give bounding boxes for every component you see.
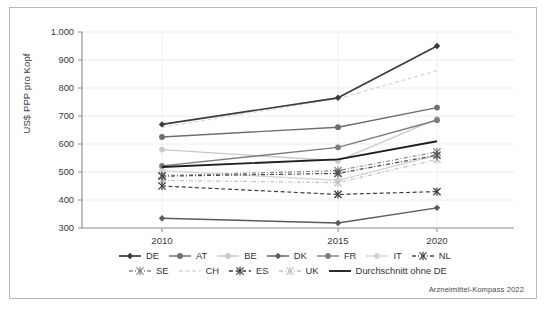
data-point-marker xyxy=(286,266,293,274)
legend-item-nl[interactable]: NL xyxy=(411,250,451,261)
y-tick-label: 700 xyxy=(58,111,74,121)
chart-figure: 3004005006007008009001.000201020152020 U… xyxy=(0,0,546,313)
legend-item-ch[interactable]: CH xyxy=(178,265,220,276)
series-line xyxy=(162,119,437,161)
y-tick-label: 800 xyxy=(58,83,74,93)
legend-label: CH xyxy=(206,265,220,276)
series-be xyxy=(159,116,440,164)
series-dk xyxy=(159,205,440,227)
legend-label: NL xyxy=(439,250,451,261)
data-point-marker xyxy=(434,105,440,111)
series-line xyxy=(162,46,437,124)
legend-item-uk[interactable]: UK xyxy=(278,265,319,276)
y-tick-label: 900 xyxy=(58,55,74,65)
legend-item-dk[interactable]: DK xyxy=(266,250,307,261)
legend-label: IT xyxy=(393,250,401,261)
x-tick-label: 2020 xyxy=(426,235,447,246)
legend-swatch xyxy=(228,266,252,276)
data-point-marker xyxy=(159,215,165,221)
series-uk xyxy=(158,155,440,187)
legend-label: DE xyxy=(146,250,159,261)
legend-row-1: DEATBEDKFRITNL xyxy=(118,248,478,263)
data-point-marker xyxy=(275,252,281,258)
chart-legend: DEATBEDKFRITNL SECHESUKDurchschnitt ohne… xyxy=(118,248,478,278)
data-point-marker xyxy=(127,252,133,258)
x-tick-label: 2010 xyxy=(151,235,172,246)
series-line xyxy=(162,186,437,194)
data-point-marker xyxy=(225,253,231,259)
data-point-marker xyxy=(159,134,165,140)
series-at xyxy=(159,105,440,140)
data-point-marker xyxy=(136,266,143,274)
y-axis-title: US$ PPP pro Kopf xyxy=(21,24,32,164)
series-es xyxy=(158,182,440,199)
y-tick-label: 300 xyxy=(58,223,74,233)
series-it xyxy=(159,152,440,183)
legend-swatch xyxy=(168,251,192,261)
legend-item-durchschnitt-ohne-de[interactable]: Durchschnitt ohne DE xyxy=(328,265,447,276)
legend-item-fr[interactable]: FR xyxy=(316,250,357,261)
source-note: Arzneimittel-Kompass 2022 xyxy=(429,285,524,294)
legend-swatch xyxy=(278,266,302,276)
legend-swatch xyxy=(266,251,290,261)
legend-label: Durchschnitt ohne DE xyxy=(356,265,447,276)
legend-label: FR xyxy=(344,250,357,261)
legend-swatch xyxy=(316,251,340,261)
legend-swatch xyxy=(216,251,240,261)
legend-label: SE xyxy=(156,265,169,276)
series-line xyxy=(162,108,437,137)
y-tick-label: 500 xyxy=(58,167,74,177)
x-tick-label: 2015 xyxy=(327,235,348,246)
data-point-marker xyxy=(177,253,183,259)
legend-item-se[interactable]: SE xyxy=(128,265,169,276)
legend-item-es[interactable]: ES xyxy=(228,265,269,276)
data-point-marker xyxy=(419,251,426,259)
legend-item-at[interactable]: AT xyxy=(168,250,207,261)
data-point-marker xyxy=(434,43,440,49)
data-point-marker xyxy=(335,124,341,130)
data-point-marker xyxy=(335,95,341,101)
legend-row-2: SECHESUKDurchschnitt ohne DE xyxy=(118,263,478,278)
data-point-marker xyxy=(325,253,331,259)
legend-label: AT xyxy=(196,250,207,261)
y-tick-label: 400 xyxy=(58,195,74,205)
legend-label: ES xyxy=(256,265,269,276)
y-tick-label: 1.000 xyxy=(51,27,74,37)
legend-item-it[interactable]: IT xyxy=(365,250,401,261)
legend-label: BE xyxy=(244,250,257,261)
legend-swatch xyxy=(411,251,435,261)
data-point-marker xyxy=(159,163,165,169)
data-point-marker xyxy=(335,144,341,150)
y-tick-label: 600 xyxy=(58,139,74,149)
legend-swatch xyxy=(118,251,142,261)
data-point-marker xyxy=(335,220,341,226)
legend-swatch xyxy=(178,266,202,276)
data-point-marker xyxy=(374,253,380,259)
legend-swatch xyxy=(128,266,152,276)
data-point-marker xyxy=(159,147,165,153)
legend-swatch xyxy=(328,266,352,276)
legend-label: UK xyxy=(306,265,319,276)
legend-item-de[interactable]: DE xyxy=(118,250,159,261)
data-point-marker xyxy=(434,117,440,123)
series-line xyxy=(162,208,437,223)
legend-item-be[interactable]: BE xyxy=(216,250,257,261)
data-point-marker xyxy=(434,205,440,211)
legend-label: DK xyxy=(294,250,307,261)
legend-swatch xyxy=(365,251,389,261)
